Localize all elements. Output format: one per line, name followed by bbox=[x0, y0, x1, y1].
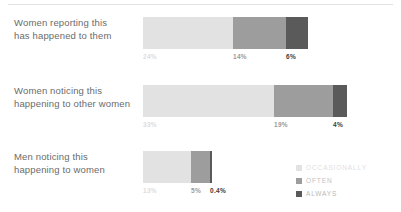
chart-legend: OCCASIONALLY OFTEN ALWAYS bbox=[296, 162, 396, 201]
row-label-line2: has happened to them bbox=[14, 29, 138, 42]
row-label-line1: Women reporting this bbox=[14, 16, 138, 29]
bar-segment-occasionally bbox=[143, 17, 233, 49]
bar-segment-often bbox=[191, 151, 210, 183]
bar-area bbox=[143, 17, 308, 49]
stacked-bar bbox=[143, 17, 308, 49]
row-label-line2: happening to other women bbox=[14, 97, 138, 110]
bar-segment-always bbox=[333, 85, 347, 117]
row-label: Women noticing this happening to other w… bbox=[14, 84, 138, 110]
legend-swatch-occasionally bbox=[296, 165, 302, 171]
row-label-line1: Men noticing this bbox=[14, 150, 138, 163]
bar-area bbox=[143, 85, 347, 117]
value-label-always: 4% bbox=[333, 120, 343, 130]
value-label-often: 19% bbox=[274, 120, 288, 130]
row-label-line2: happening to women bbox=[14, 163, 138, 176]
value-label-always: 6% bbox=[286, 52, 296, 62]
stacked-bar bbox=[143, 85, 347, 117]
legend-item-always[interactable]: ALWAYS bbox=[296, 188, 396, 200]
row-label-line1: Women noticing this bbox=[14, 84, 138, 97]
bar-area bbox=[143, 151, 212, 183]
row-label: Women reporting this has happened to the… bbox=[14, 16, 138, 42]
bar-segment-occasionally bbox=[143, 151, 191, 183]
top-divider bbox=[8, 4, 393, 5]
value-label-occasionally: 13% bbox=[143, 186, 157, 196]
legend-label-always: ALWAYS bbox=[306, 190, 337, 198]
bar-segment-always bbox=[210, 151, 212, 183]
legend-item-often[interactable]: OFTEN bbox=[296, 175, 396, 187]
legend-swatch-always bbox=[296, 191, 302, 197]
value-label-occasionally: 33% bbox=[143, 120, 157, 130]
bar-segment-often bbox=[233, 17, 286, 49]
bar-segment-often bbox=[274, 85, 333, 117]
stacked-bar bbox=[143, 151, 212, 183]
bar-segment-occasionally bbox=[143, 85, 274, 117]
value-label-always: 0.4% bbox=[210, 186, 226, 196]
legend-label-often: OFTEN bbox=[306, 177, 333, 185]
legend-swatch-often bbox=[296, 178, 302, 184]
value-label-often: 14% bbox=[233, 52, 247, 62]
legend-label-occasionally: OCCASIONALLY bbox=[306, 164, 367, 172]
legend-item-occasionally[interactable]: OCCASIONALLY bbox=[296, 162, 396, 174]
stacked-bar-chart: Women reporting this has happened to the… bbox=[0, 0, 401, 212]
chart-row: Women reporting this has happened to the… bbox=[0, 16, 401, 72]
chart-row: Women noticing this happening to other w… bbox=[0, 84, 401, 140]
value-label-often: 5% bbox=[191, 186, 201, 196]
bar-segment-always bbox=[286, 17, 308, 49]
row-label: Men noticing this happening to women bbox=[14, 150, 138, 176]
value-label-occasionally: 24% bbox=[143, 52, 157, 62]
